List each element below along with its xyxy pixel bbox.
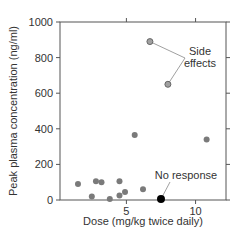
annotation-leader: [168, 58, 185, 84]
y-tick-label: 400: [35, 123, 53, 135]
x-axis-label: Dose (mg/kg twice daily): [83, 215, 203, 227]
data-point: [165, 81, 171, 87]
y-axis-label: Peak plasma concentration (ng/ml): [7, 26, 19, 196]
side-effects-label: Side: [189, 45, 211, 57]
data-point: [140, 186, 146, 192]
data-point: [116, 178, 122, 184]
data-point: [93, 178, 99, 184]
data-point: [75, 181, 81, 187]
y-tick-label: 600: [35, 87, 53, 99]
annotations: SideeffectsNo response: [155, 45, 217, 181]
data-point: [147, 39, 153, 45]
data-point: [89, 193, 95, 199]
y-tick-label: 200: [35, 158, 53, 170]
annotation-leader: [150, 42, 185, 58]
data-point: [99, 179, 105, 185]
data-point: [116, 193, 122, 199]
y-tick-label: 800: [35, 52, 53, 64]
y-tick-label: 0: [47, 194, 53, 206]
data-point: [107, 196, 113, 202]
y-tick-label: 1000: [29, 16, 53, 28]
data-point: [132, 132, 138, 138]
data-point: [204, 136, 210, 142]
no-response-label: No response: [155, 169, 217, 181]
side-effects-label: effects: [184, 57, 217, 69]
scatter-chart: 02004006008001000 510 SideeffectsNo resp…: [0, 0, 242, 242]
data-point: [122, 189, 128, 195]
data-point: [157, 195, 165, 203]
